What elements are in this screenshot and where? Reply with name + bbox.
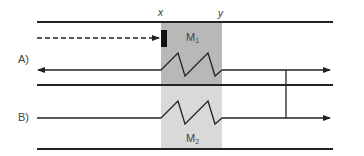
row-a-label: A) xyxy=(18,54,29,65)
region-m2-subscript: 2 xyxy=(195,138,199,145)
region-m1-letter: M xyxy=(186,31,195,43)
diagram-svg xyxy=(0,0,364,156)
region-m1-label: M1 xyxy=(186,32,199,44)
marker-y-label: y xyxy=(218,9,223,19)
region-m2-label: M2 xyxy=(186,133,199,145)
row-b-label: B) xyxy=(18,112,29,123)
diagram-canvas: x y A) B) M1 M2 xyxy=(0,0,364,156)
region-m2-letter: M xyxy=(186,132,195,144)
region-m1-subscript: 1 xyxy=(195,37,199,44)
black-block xyxy=(161,30,167,47)
marker-x-label: x xyxy=(158,8,163,18)
